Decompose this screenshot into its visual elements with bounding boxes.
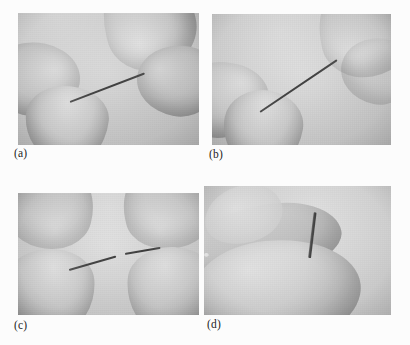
photo-image-d [204, 186, 391, 315]
photo-grain-c [18, 193, 199, 315]
panel-label-a: (a) [14, 148, 27, 160]
figure-panel-b [212, 14, 391, 145]
panel-label-c: (c) [14, 320, 27, 332]
figure-panel-c [18, 193, 199, 315]
photo-grain-d [204, 186, 391, 315]
photo-grain-a [18, 13, 199, 145]
figure-panel-d [204, 186, 391, 315]
photo-image-c [18, 193, 199, 315]
photo-image-b [212, 14, 391, 145]
photo-grain-b [212, 14, 391, 145]
figure-panel-a [18, 13, 199, 145]
panel-label-d: (d) [207, 319, 221, 331]
figure-plate: (a) (b) (c) [0, 0, 410, 345]
panel-label-b: (b) [209, 149, 223, 161]
photo-image-a [18, 13, 199, 145]
